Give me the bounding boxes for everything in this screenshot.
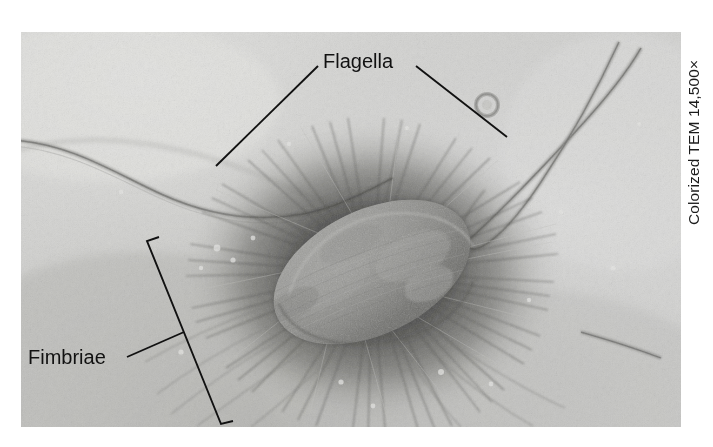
micrograph-figure: Flagella Fimbriae Colorized TEM 14,500× [0,0,713,447]
micrograph-image [21,32,681,427]
micrograph-content [21,32,681,427]
micrograph-canvas [21,32,681,427]
magnification-caption: Colorized TEM 14,500× [683,25,705,225]
film-grain-coarse [21,32,681,427]
